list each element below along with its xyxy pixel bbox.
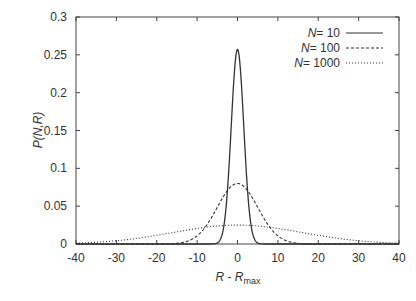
x-tick-label: -40: [67, 251, 85, 265]
y-tick-label: 0.1: [50, 161, 67, 175]
y-tick-label: 0.15: [44, 124, 68, 138]
axis-ticks: [76, 17, 399, 244]
x-axis-label: R - Rmax: [215, 270, 261, 286]
y-tick-label: 0.25: [44, 48, 68, 62]
y-tick-label: 0.2: [50, 86, 67, 100]
series-line: [76, 50, 399, 244]
x-tick-label: 0: [234, 251, 241, 265]
x-tick-label: -30: [108, 251, 126, 265]
y-tick-label: 0: [60, 237, 67, 251]
x-tick-label: 10: [271, 251, 285, 265]
legend-label: N= 100: [301, 41, 340, 55]
legend-label: N= 1000: [294, 56, 340, 70]
y-axis-label: P(N,R): [31, 112, 45, 149]
series-line: [76, 183, 399, 244]
y-tick-label: 0.05: [44, 199, 68, 213]
plot-frame: [76, 17, 399, 244]
series-curves: [76, 50, 399, 244]
y-tick-label: 0.3: [50, 10, 67, 24]
x-tick-label: -10: [188, 251, 206, 265]
x-tick-labels: -40-30-20-10010203040: [67, 251, 406, 265]
x-tick-label: 20: [312, 251, 326, 265]
x-tick-label: 40: [392, 251, 406, 265]
chart: 00.050.10.150.20.250.3 -40-30-20-1001020…: [0, 0, 416, 301]
y-tick-labels: 00.050.10.150.20.250.3: [44, 10, 68, 251]
x-tick-label: -20: [148, 251, 166, 265]
legend-label: N= 10: [308, 26, 341, 40]
x-tick-label: 30: [352, 251, 366, 265]
legend: N= 10N= 100N= 1000: [294, 26, 383, 70]
